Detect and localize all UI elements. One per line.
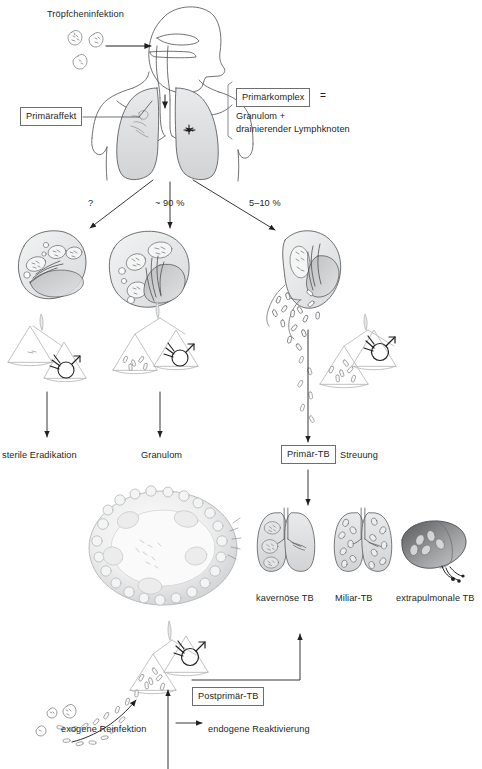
postprimary-tb-box: Postprimär-TB xyxy=(192,687,264,706)
droplet-infection-label: Tröpfcheninfektion xyxy=(47,8,124,20)
complex-definition-line1: Granulom + xyxy=(236,110,285,122)
outcome-label-granuloma: Granulom xyxy=(141,449,182,461)
primary-affect-box: Primäraffekt xyxy=(20,107,82,126)
complex-definition-line2: drainierender Lymphknoten xyxy=(236,123,350,135)
primary-complex-box: Primärkomplex xyxy=(236,88,310,107)
equals-sign: = xyxy=(320,90,326,102)
endogenous-reactivation-label: endogene Reaktivierung xyxy=(208,723,310,735)
outcome-box-primary-tb: Primär-TB xyxy=(281,445,336,464)
spread-form-label-extrapulmonal: extrapulmonale TB xyxy=(396,592,475,604)
branch-probability-left: ? xyxy=(88,197,93,209)
outcome-label-eradication: sterile Eradikation xyxy=(2,449,77,461)
branch-probability-middle: ~ 90 % xyxy=(155,197,184,209)
tuberculosis-pathogenesis-figure: Tröpfcheninfektion Primäraffekt Primärko… xyxy=(0,0,482,769)
spread-form-label-miliary: Miliar-TB xyxy=(335,592,373,604)
exogenous-reinfection-label: exogene Reinfektion xyxy=(61,723,147,735)
spread-label: Streuung xyxy=(340,449,378,461)
spread-form-label-cavernous: kavernöse TB xyxy=(256,592,314,604)
branch-probability-right: 5–10 % xyxy=(249,197,281,209)
